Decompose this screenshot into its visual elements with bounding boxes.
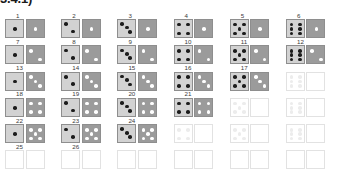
dice-pair-cell[interactable]: 8 (60, 38, 116, 64)
dark-die-face-5 (26, 124, 45, 143)
light-die-face-4 (174, 72, 193, 91)
die-pip (177, 128, 181, 132)
die-pip (242, 75, 246, 79)
dice-pair-label: 10 (185, 38, 192, 45)
dice-pair-label: 6 (297, 12, 300, 19)
dice-pair-cell[interactable]: 10 (173, 38, 229, 64)
dice-pair-cell[interactable]: 9 (116, 38, 172, 64)
die-pip (198, 75, 202, 79)
dice-pair-cell[interactable] (173, 143, 229, 169)
dice-pair-cell[interactable]: 22 (4, 117, 60, 143)
dice-pair-cell[interactable]: 14 (60, 65, 116, 91)
dice-pair-cell[interactable]: 17 (229, 65, 285, 91)
die-pip (290, 110, 294, 114)
die-pip (298, 128, 302, 132)
dice-pair-label: 8 (72, 38, 75, 45)
die-pip (128, 83, 132, 87)
dice-pair-cell[interactable] (173, 117, 229, 143)
dark-die-face-3 (250, 72, 269, 91)
dice-pair (286, 150, 326, 169)
die-pip (258, 27, 262, 31)
dark-die-face-1 (82, 19, 101, 38)
die-pip (64, 75, 68, 79)
dice-pair-cell[interactable]: 21 (173, 91, 229, 117)
die-pip (242, 23, 246, 27)
die-pip (177, 75, 181, 79)
die-pip (125, 105, 129, 109)
dice-pair-cell[interactable]: 16 (173, 65, 229, 91)
die-pip (290, 53, 294, 57)
die-pip (290, 132, 294, 136)
dice-pair-cell[interactable] (285, 91, 341, 117)
die-pip (242, 110, 246, 114)
light-die-face-4 (174, 98, 193, 117)
die-pip (120, 101, 124, 105)
die-pip (290, 84, 294, 88)
die-pip (298, 106, 302, 110)
dice-pair-cell[interactable]: 24 (116, 117, 172, 143)
dice-pair-cell[interactable]: 4 (173, 12, 229, 38)
dice-pair-cell[interactable]: 5 (229, 12, 285, 38)
dice-pair-cell[interactable]: 1 (4, 12, 60, 38)
die-pip (207, 110, 211, 114)
dice-pair-cell[interactable] (285, 65, 341, 91)
dice-pair-cell[interactable]: 12 (285, 38, 341, 64)
die-pip (85, 49, 89, 53)
dark-die-face-5 (138, 124, 157, 143)
die-pip (34, 80, 38, 84)
dice-pair-label: 21 (185, 90, 192, 97)
dice-pair-cell[interactable]: 6 (285, 12, 341, 38)
dice-pair-cell[interactable]: 18 (4, 91, 60, 117)
die-pip (238, 80, 242, 84)
light-die-face-3 (117, 19, 136, 38)
dice-pair (286, 45, 326, 64)
ghost-dark-die-face-0 (194, 150, 213, 169)
die-pip (34, 132, 38, 136)
die-pip (290, 58, 294, 62)
dice-pair (5, 19, 45, 38)
die-pip (233, 58, 237, 62)
dice-pair-cell[interactable] (229, 91, 285, 117)
light-die-face-1 (5, 124, 24, 143)
die-pip (150, 137, 154, 141)
dice-pair-cell[interactable]: 2 (60, 12, 116, 38)
die-pip (29, 49, 33, 53)
dice-pair-cell[interactable]: 25 (4, 143, 60, 169)
dice-pair-cell[interactable] (116, 143, 172, 169)
dice-pair-label: 14 (72, 64, 79, 71)
dice-pair-cell[interactable]: 11 (229, 38, 285, 64)
dark-die-face-2 (306, 45, 325, 64)
dice-pair-cell[interactable] (285, 143, 341, 169)
dice-pair-label: 15 (128, 64, 135, 71)
die-pip (128, 135, 132, 139)
die-pip (177, 110, 181, 114)
dice-pair (61, 124, 101, 143)
ghost-dark-die-face-0 (82, 150, 101, 169)
die-pip (207, 102, 211, 106)
die-pip (290, 75, 294, 79)
die-pip (128, 109, 132, 113)
dice-pair-cell[interactable]: 23 (60, 117, 116, 143)
die-pip (85, 128, 89, 132)
dice-pair (230, 19, 270, 38)
die-pip (186, 58, 190, 62)
dice-pair-cell[interactable]: 3 (116, 12, 172, 38)
dice-pair-cell[interactable]: 15 (116, 65, 172, 91)
dice-pair-cell[interactable] (229, 143, 285, 169)
dice-pair-cell[interactable] (229, 117, 285, 143)
dice-pair-cell[interactable]: 19 (60, 91, 116, 117)
light-die-face-1 (5, 72, 24, 91)
die-pip (298, 137, 302, 141)
die-pip (71, 135, 75, 139)
dice-pair-cell[interactable]: 7 (4, 38, 60, 64)
dice-pair-cell[interactable]: 20 (116, 91, 172, 117)
dice-pair-label: 19 (72, 90, 79, 97)
dice-pair-cell[interactable]: 13 (4, 65, 60, 91)
dice-pair (174, 124, 214, 143)
dice-pair-cell[interactable]: 26 (60, 143, 116, 169)
light-die-face-6 (286, 45, 305, 64)
die-pip (310, 49, 314, 53)
dice-pair-cell[interactable] (285, 117, 341, 143)
light-die-face-2 (61, 72, 80, 91)
light-die-face-3 (117, 98, 136, 117)
